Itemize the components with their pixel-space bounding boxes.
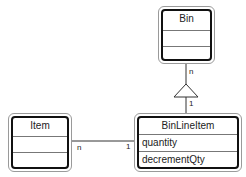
- class-binlineitem-name: BinLineItem: [139, 118, 237, 134]
- class-bin-attributes: [163, 30, 210, 46]
- class-item-attributes: [13, 136, 67, 152]
- class-binlineitem-body: BinLineItem quantity decrementQty: [137, 116, 239, 169]
- class-item-operations: [13, 152, 67, 167]
- class-bin-operations: [163, 46, 210, 59]
- triangle-icon: [174, 84, 198, 97]
- multiplicity-bin: n: [189, 67, 193, 76]
- class-item-body: Item: [11, 116, 69, 169]
- class-bin[interactable]: Bin: [158, 6, 215, 64]
- class-binlineitem-attribute-quantity: quantity: [139, 134, 237, 151]
- class-binlineitem[interactable]: BinLineItem quantity decrementQty: [134, 113, 242, 172]
- class-binlineitem-operation-decrementqty: decrementQty: [139, 151, 237, 168]
- class-bin-name: Bin: [163, 11, 210, 30]
- multiplicity-binlineitem-left: 1: [126, 142, 130, 151]
- multiplicity-item: n: [77, 143, 81, 152]
- class-bin-body: Bin: [161, 9, 212, 61]
- class-item[interactable]: Item: [8, 113, 72, 172]
- class-item-name: Item: [13, 118, 67, 136]
- multiplicity-binlineitem-up: 1: [189, 99, 193, 108]
